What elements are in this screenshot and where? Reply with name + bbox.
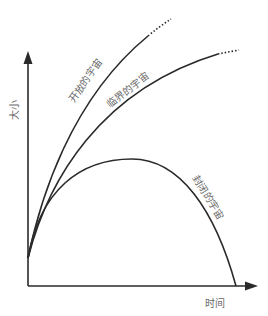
- y-axis-label: 大小: [8, 100, 20, 120]
- x-axis-label: 时间: [205, 297, 225, 309]
- x-axis: [28, 282, 258, 291]
- curve-open-universe: [28, 19, 171, 258]
- x-axis-arrow-icon: [245, 282, 258, 291]
- y-axis: [24, 51, 33, 286]
- open-universe-label: 开放的宇宙: [66, 56, 105, 104]
- y-axis-arrow-icon: [24, 51, 33, 64]
- universe-expansion-diagram: 大小 时间 开放的宇宙 临界的宇宙 封闭的宇宙: [0, 0, 268, 316]
